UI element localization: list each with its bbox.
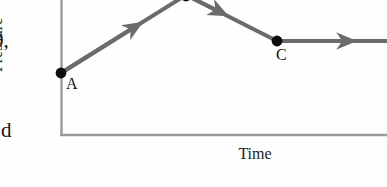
x-axis-title: Time bbox=[205, 146, 305, 162]
data-point-marker-c bbox=[272, 36, 283, 47]
plot-canvas bbox=[0, 0, 387, 187]
data-point-label-c: C bbox=[276, 47, 287, 63]
segment-b-to-c-arrowhead bbox=[186, 0, 218, 11]
data-point-label-a: A bbox=[66, 76, 78, 92]
segment-a-to-b-arrowhead bbox=[61, 28, 133, 73]
pressure-time-figure: 0, d A B C Pressure Time bbox=[0, 0, 387, 187]
segment-b-to-c bbox=[186, 0, 277, 41]
data-point-marker-a bbox=[56, 68, 67, 79]
data-point-label-b: B bbox=[180, 0, 191, 3]
y-axis-title: Pressure bbox=[0, 0, 5, 93]
